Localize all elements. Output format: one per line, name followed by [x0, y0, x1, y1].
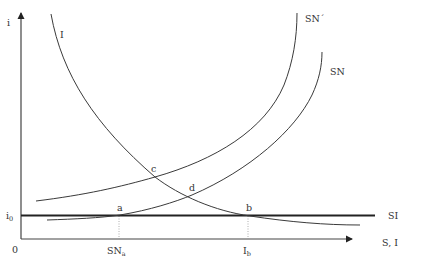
investment-curve-label: I: [60, 29, 64, 40]
point-d-label: d: [189, 182, 195, 193]
investment-curve: [51, 14, 360, 225]
savings-curve-label: SN: [330, 66, 345, 77]
x-tick-sna: SNa: [107, 245, 126, 258]
x-tick-ib: Ib: [243, 245, 251, 258]
x-axis-label: S, I: [382, 237, 398, 248]
diagram-canvas: i S, I 0 i0 SNa Ib I SN´ SN SI a b c d: [0, 0, 433, 260]
si-line-label: SI: [388, 210, 399, 221]
savings-shifted-curve: [36, 13, 297, 201]
origin-label: 0: [12, 244, 18, 255]
point-b-label: b: [246, 202, 252, 213]
point-c-label: c: [151, 163, 156, 174]
point-a-label: a: [117, 202, 123, 213]
y-axis-label: i: [7, 17, 10, 28]
savings-shifted-curve-label: SN´: [305, 13, 325, 24]
y-tick-i0: i0: [6, 210, 13, 223]
